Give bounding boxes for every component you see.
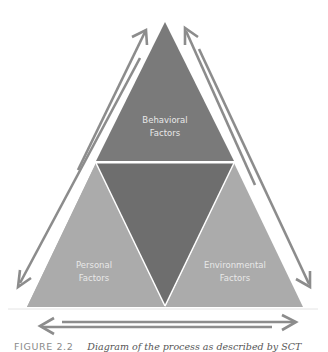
environmental-label-line1: Environmental xyxy=(204,260,266,270)
sct-diagram: Behavioral Factors Personal Factors Envi… xyxy=(0,0,328,352)
personal-label-line1: Personal xyxy=(76,260,112,270)
behavioral-label-line2: Factors xyxy=(150,128,181,138)
environmental-label-line2: Factors xyxy=(220,273,251,283)
behavioral-label-line1: Behavioral xyxy=(142,115,187,125)
figure-caption-text: Diagram of the process as described by S… xyxy=(87,341,301,352)
bottom-double-arrow xyxy=(40,315,296,334)
figure-number: FIGURE 2.2 xyxy=(14,341,73,352)
personal-label-line2: Factors xyxy=(79,273,110,283)
figure-caption: FIGURE 2.2Diagram of the process as desc… xyxy=(14,341,328,352)
